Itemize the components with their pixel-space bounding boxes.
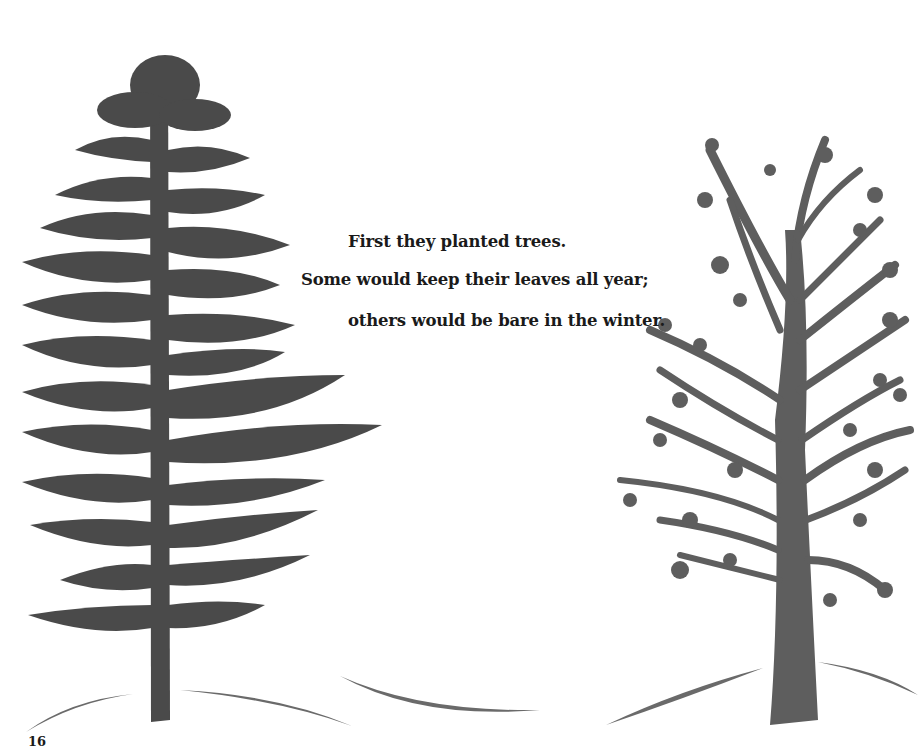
verse-line-2: Some would keep their leaves all year; xyxy=(301,270,648,289)
page-illustration xyxy=(0,0,924,755)
page-number: 16 xyxy=(28,734,46,749)
deciduous-tree xyxy=(620,138,910,725)
evergreen-tree xyxy=(22,55,382,722)
verse-line-3: others would be bare in the winter. xyxy=(348,311,665,330)
verse-line-1: First they planted trees. xyxy=(348,232,566,251)
